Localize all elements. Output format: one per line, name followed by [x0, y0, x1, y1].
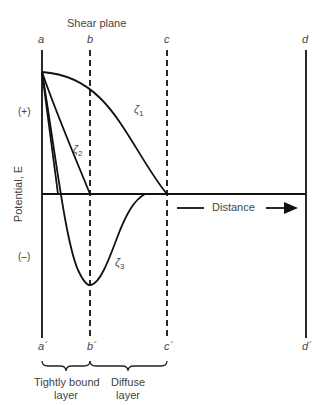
distance-label: Distance [212, 201, 255, 213]
label-b-prime: b´ [87, 340, 97, 352]
label-c-prime: c´ [164, 340, 173, 352]
brace-tightly-bound [42, 361, 90, 371]
zeta1-label: ζ1 [134, 103, 144, 118]
label-c: c [164, 33, 170, 45]
zeta3-label: ζ3 [115, 256, 125, 271]
tightly-bound-layer-label: Tightly bound layer [34, 376, 98, 402]
diffuse-line1: Diffuse [104, 376, 152, 389]
diffuse-layer-label: Diffuse layer [104, 376, 152, 402]
label-b: b [87, 33, 93, 45]
label-d: d [302, 33, 308, 45]
shear-plane-title: Shear plane [67, 17, 126, 29]
y-axis-label: Potential, E [12, 166, 24, 222]
zeta2-sub: 2 [78, 149, 82, 158]
zeta3-sub: 3 [120, 262, 124, 271]
brace-diffuse [90, 361, 167, 371]
label-a-prime: a´ [38, 340, 48, 352]
label-d-prime: d´ [302, 340, 312, 352]
tightly-bound-line2: layer [34, 389, 98, 402]
zeta2-label: ζ2 [73, 143, 83, 158]
arrow-right-icon [284, 202, 298, 214]
curve-zeta1 [42, 72, 167, 194]
positive-sign: (+) [18, 106, 31, 117]
negative-sign: (–) [18, 251, 30, 262]
label-a: a [38, 33, 44, 45]
curve-zeta3 [42, 72, 145, 285]
tightly-bound-line1: Tightly bound [34, 376, 98, 389]
diffuse-line2: layer [104, 389, 152, 402]
zeta1-sub: 1 [139, 109, 143, 118]
